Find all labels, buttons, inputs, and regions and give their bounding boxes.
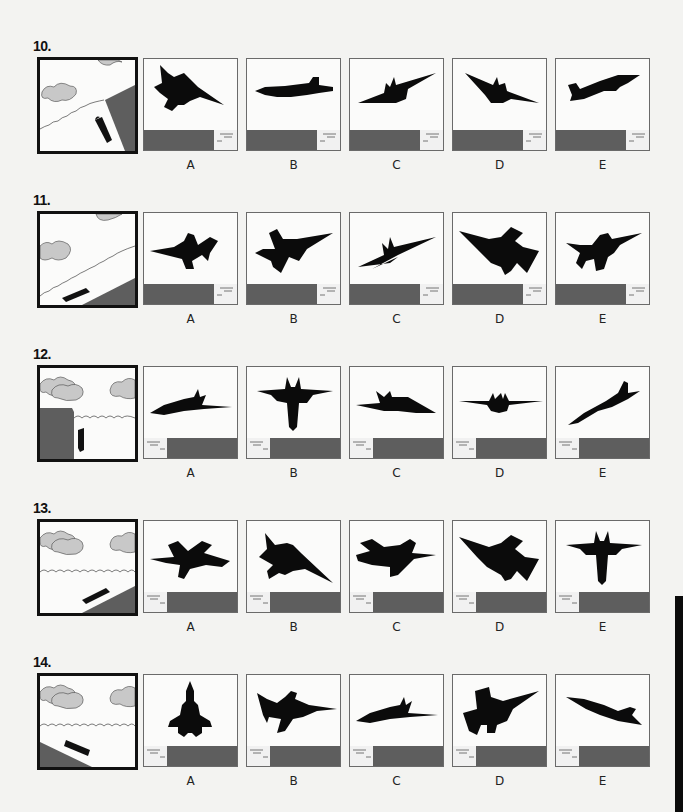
option-label: B <box>246 774 341 788</box>
option-label: E <box>555 158 650 172</box>
problem-10: 10. A B <box>0 38 683 188</box>
option-a[interactable]: A <box>143 520 238 613</box>
option-c[interactable]: C <box>349 58 444 151</box>
option-label: E <box>555 466 650 480</box>
option-d[interactable]: D <box>452 212 547 305</box>
reference-scene <box>37 673 138 770</box>
problem-number: 13. <box>33 500 51 516</box>
option-e[interactable]: E <box>555 520 650 613</box>
reference-scene <box>37 57 138 154</box>
option-d[interactable]: D <box>452 366 547 459</box>
option-a[interactable]: A <box>143 366 238 459</box>
option-c[interactable]: C <box>349 366 444 459</box>
option-e[interactable]: E <box>555 212 650 305</box>
option-label: C <box>349 466 444 480</box>
reference-scene <box>37 365 138 462</box>
problem-number: 14. <box>33 654 51 670</box>
problem-number: 11. <box>33 192 50 208</box>
option-label: E <box>555 774 650 788</box>
option-label: A <box>143 312 238 326</box>
option-label: B <box>246 466 341 480</box>
option-b[interactable]: B <box>246 212 341 305</box>
option-c[interactable]: C <box>349 520 444 613</box>
option-a[interactable]: A <box>143 58 238 151</box>
option-e[interactable]: E <box>555 366 650 459</box>
option-b[interactable]: B <box>246 674 341 767</box>
option-label: A <box>143 620 238 634</box>
option-e[interactable]: E <box>555 58 650 151</box>
option-a[interactable]: A <box>143 674 238 767</box>
problem-12: 12. A B <box>0 346 683 496</box>
option-label: D <box>452 466 547 480</box>
option-b[interactable]: B <box>246 520 341 613</box>
problem-11: 11. A B <box>0 192 683 342</box>
option-label: D <box>452 774 547 788</box>
option-d[interactable]: D <box>452 58 547 151</box>
option-label: B <box>246 312 341 326</box>
option-b[interactable]: B <box>246 366 341 459</box>
option-label: A <box>143 466 238 480</box>
option-label: B <box>246 158 341 172</box>
option-label: C <box>349 158 444 172</box>
option-label: E <box>555 620 650 634</box>
section-thumb-tab <box>675 596 683 812</box>
option-c[interactable]: C <box>349 674 444 767</box>
option-d[interactable]: D <box>452 520 547 613</box>
option-a[interactable]: A <box>143 212 238 305</box>
problem-13: 13. A B <box>0 500 683 650</box>
option-label: D <box>452 620 547 634</box>
problem-14: 14. A B <box>0 654 683 804</box>
problem-number: 12. <box>33 346 51 362</box>
reference-scene <box>37 519 138 616</box>
option-c[interactable]: C <box>349 212 444 305</box>
option-label: C <box>349 312 444 326</box>
option-b[interactable]: B <box>246 58 341 151</box>
option-e[interactable]: E <box>555 674 650 767</box>
option-label: B <box>246 620 341 634</box>
option-label: C <box>349 774 444 788</box>
option-label: D <box>452 158 547 172</box>
option-d[interactable]: D <box>452 674 547 767</box>
option-label: D <box>452 312 547 326</box>
option-label: A <box>143 774 238 788</box>
option-label: E <box>555 312 650 326</box>
option-label: A <box>143 158 238 172</box>
reference-scene <box>37 211 138 308</box>
problem-number: 10. <box>33 38 51 54</box>
option-label: C <box>349 620 444 634</box>
